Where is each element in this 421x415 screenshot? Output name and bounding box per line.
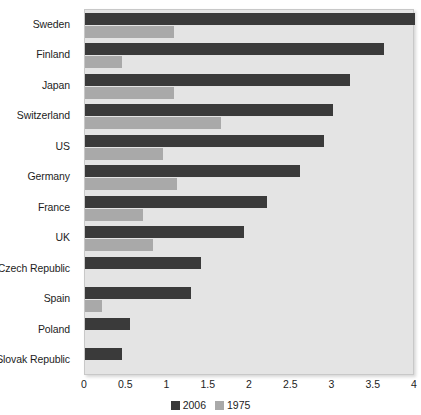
category-label: US — [0, 141, 70, 152]
category-label: Czech Republic — [0, 263, 70, 274]
bar-1975-japan — [85, 87, 174, 99]
legend-label: 2006 — [183, 400, 206, 411]
category-label: Sweden — [0, 19, 70, 30]
x-tick-label: 0.5 — [118, 378, 133, 390]
chart-legend: 20061975 — [0, 398, 421, 413]
bar-2006-us — [85, 135, 324, 147]
bar-2006-poland — [85, 318, 130, 330]
bar-2006-finland — [85, 43, 384, 55]
category-label: Japan — [0, 80, 70, 91]
bar-1975-switzerland — [85, 117, 221, 129]
bar-1975-finland — [85, 56, 122, 68]
legend-item-2006: 2006 — [171, 400, 206, 411]
bar-2006-japan — [85, 74, 350, 86]
bar-1975-france — [85, 209, 143, 221]
category-label: Slovak Republic — [0, 354, 70, 365]
x-tick-label: 3.5 — [365, 378, 380, 390]
x-axis-tick-labels: 00.511.522.533.54 — [0, 378, 421, 396]
bar-1975-spain — [85, 300, 102, 312]
x-tick-label: 4 — [411, 378, 417, 390]
bar-1975-uk — [85, 239, 153, 251]
legend-item-1975: 1975 — [215, 400, 250, 411]
bar-2006-spain — [85, 287, 191, 299]
legend-label: 1975 — [227, 400, 250, 411]
bar-2006-sweden — [85, 13, 415, 25]
x-tick-label: 0 — [81, 378, 87, 390]
category-label: Finland — [0, 49, 70, 60]
x-tick-label: 2 — [246, 378, 252, 390]
bar-1975-us — [85, 148, 163, 160]
bar-1975-germany — [85, 178, 177, 190]
category-label: Spain — [0, 293, 70, 304]
bar-2006-switzerland — [85, 104, 333, 116]
category-axis-labels: SwedenFinlandJapanSwitzerlandUSGermanyFr… — [0, 9, 76, 375]
plot-area — [84, 9, 414, 375]
category-label: France — [0, 202, 70, 213]
category-label: Poland — [0, 324, 70, 335]
category-label: UK — [0, 232, 70, 243]
horizontal-bar-chart: SwedenFinlandJapanSwitzerlandUSGermanyFr… — [0, 0, 421, 415]
x-tick-label: 2.5 — [283, 378, 298, 390]
category-label: Germany — [0, 171, 70, 182]
legend-swatch-icon — [171, 401, 180, 410]
bar-2006-uk — [85, 226, 244, 238]
bar-1975-sweden — [85, 26, 174, 38]
x-tick-label: 3 — [329, 378, 335, 390]
x-tick-label: 1 — [164, 378, 170, 390]
category-label: Switzerland — [0, 110, 70, 121]
bar-2006-germany — [85, 165, 300, 177]
x-tick-label: 1.5 — [200, 378, 215, 390]
bar-2006-france — [85, 196, 267, 208]
bar-2006-slovak-republic — [85, 348, 122, 360]
legend-swatch-icon — [215, 401, 224, 410]
bar-2006-czech-republic — [85, 257, 201, 269]
